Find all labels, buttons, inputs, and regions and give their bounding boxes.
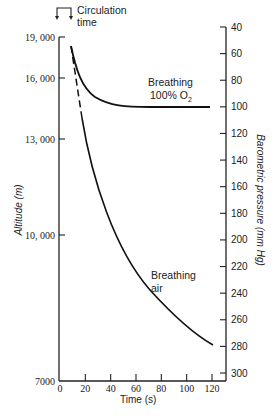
right-tick-label: 260 xyxy=(231,314,248,325)
right-tick-label: 80 xyxy=(231,75,243,86)
x-tick-label: 60 xyxy=(131,383,141,394)
left-tick-label: 19, 000 xyxy=(25,32,55,43)
right-axis-title: Barometric pressure (mm Hg) xyxy=(255,134,266,266)
x-tick-label: 80 xyxy=(156,383,166,394)
x-tick-label: 120 xyxy=(205,383,220,394)
x-tick-label: 100 xyxy=(179,383,194,394)
right-tick-label: 280 xyxy=(231,341,248,352)
right-tick-label: 220 xyxy=(231,261,248,272)
right-tick-label: 200 xyxy=(231,234,248,245)
right-tick-label: 100 xyxy=(231,101,248,112)
right-tick-label: 180 xyxy=(231,208,248,219)
x-tick-label: 20 xyxy=(80,383,90,394)
o2-label-line2: 100% O2 xyxy=(150,89,192,103)
right-tick-label: 300 xyxy=(231,368,248,379)
right-tick-label: 60 xyxy=(231,48,243,59)
right-tick-label: 40 xyxy=(231,22,243,33)
right-tick-label: 240 xyxy=(231,288,248,299)
right-tick-label: 140 xyxy=(231,155,248,166)
air-label-line1: Breathing xyxy=(151,269,196,281)
left-tick-label: 10, 000 xyxy=(25,230,55,241)
circulation-time-bracket xyxy=(55,8,73,20)
right-tick-label: 160 xyxy=(231,181,248,192)
arrow-down-icon xyxy=(55,16,59,20)
x-tick-label: 0 xyxy=(58,383,63,394)
circulation-label-line1: Circulation xyxy=(77,4,127,16)
left-tick-label: 16, 000 xyxy=(25,73,55,84)
right-tick-label: 120 xyxy=(231,128,248,139)
left-tick-label: 13, 000 xyxy=(25,134,55,145)
o2-label-line1: Breathing xyxy=(148,76,193,88)
x-axis-title: Time (s) xyxy=(120,394,156,405)
arrow-down-icon xyxy=(69,16,73,20)
right-axis-ticks: 406080100120140160180200220240260280300 xyxy=(220,22,248,379)
air-label-line2: air xyxy=(151,282,163,294)
circulation-label-line2: time xyxy=(77,16,97,28)
left-axis-title: Altitude (m) xyxy=(13,184,24,236)
x-axis-ticks: 020406080100120 xyxy=(58,374,220,394)
series-breathing-air xyxy=(82,118,213,345)
x-tick-label: 40 xyxy=(106,383,116,394)
chart-canvas: 19, 00016, 00013, 00010, 0007000 4060801… xyxy=(0,0,277,420)
left-tick-label: 7000 xyxy=(35,376,55,387)
